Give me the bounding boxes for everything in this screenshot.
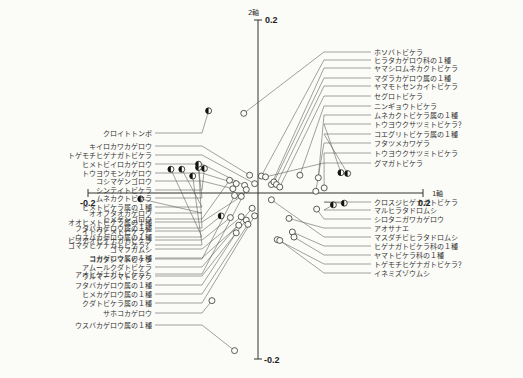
species-label: ウルマーシマトビケラ: [82, 272, 152, 281]
open-circle-marker: [241, 110, 247, 116]
leader-line: [277, 240, 371, 264]
leader-line: [289, 218, 371, 228]
leader-line: [155, 216, 221, 231]
species-label: キイロカワカゲロウ: [89, 142, 152, 151]
half-filled-circle-marker: [206, 108, 212, 114]
leader-line: [317, 209, 371, 219]
leader-line: [155, 225, 239, 258]
half-filled-circle-marker: [168, 166, 174, 172]
species-label: シンテイトビケラ: [96, 186, 152, 195]
leader-line: [324, 134, 371, 174]
species-label: ヒラタカゲロウ科の１種: [374, 56, 451, 65]
open-circle-marker: [252, 181, 258, 187]
open-circle-marker: [286, 215, 292, 221]
species-label: アオサナエ: [374, 225, 409, 233]
species-label: クロスジヒゲナガトビケラ: [374, 198, 458, 207]
species-label: グマガトビケラ: [374, 159, 423, 168]
leader-line: [324, 124, 371, 173]
open-circle-marker: [236, 222, 242, 228]
open-circle-marker: [249, 205, 255, 211]
species-label: アムールクダトビケラ: [82, 263, 152, 272]
open-circle-marker: [263, 174, 269, 180]
half-filled-circle-marker: [196, 161, 202, 167]
leader-line: [300, 106, 371, 175]
species-label: ヒゲナガトビケラ科の１種: [374, 242, 458, 251]
species-label: クロイトトンボ: [103, 130, 152, 138]
half-filled-circle-marker: [201, 165, 207, 171]
species-label: ムネカクトビケラ: [96, 194, 152, 203]
species-label: クダトビケラ属の１種: [82, 299, 152, 308]
half-filled-circle-marker: [338, 170, 344, 176]
species-label: ビワアオヒゲナガトビケラ: [68, 236, 152, 245]
species-label: ヤマトビケラ科の１種: [374, 251, 444, 260]
open-circle-marker: [268, 197, 274, 203]
open-circle-marker: [209, 298, 215, 304]
species-label: オオフタオカゲロウ: [89, 209, 152, 218]
species-label: ホソバトビケラ: [374, 48, 423, 57]
half-filled-circle-marker: [218, 213, 224, 219]
open-circle-marker: [252, 213, 258, 219]
species-label: ゴマフガムシ: [110, 245, 152, 254]
leader-line: [280, 240, 371, 273]
species-label: セグロトビケラ: [374, 92, 423, 101]
species-labels: クロイトトンボキイロカワカゲロウトゲモチヒゲナガトビケラヒメトビイロカゲロウトウ…: [68, 48, 465, 330]
species-label: コエグリトビケラ属の１種: [374, 130, 458, 139]
species-label: ヤマモトセンカイトビケラ: [374, 82, 458, 91]
open-circle-marker: [315, 175, 321, 181]
open-circle-marker: [313, 188, 319, 194]
half-filled-circle-marker: [341, 200, 347, 206]
half-filled-circle-marker: [345, 171, 351, 177]
leader-lines: [141, 52, 371, 351]
leader-line: [155, 325, 235, 351]
leader-line: [261, 60, 371, 176]
species-label: コシマゲンゴロウ: [96, 177, 152, 186]
species-label: イネミズゾウムシ: [374, 269, 430, 278]
species-label: ウスバカゲロウ属の１種: [75, 321, 152, 330]
open-circle-marker: [227, 177, 233, 183]
species-label: コカゲロウ属の１種: [89, 254, 152, 263]
y-tick-label-pos: 0.2: [265, 15, 278, 25]
species-label: ムネカクトビケラ属の１種: [374, 111, 458, 120]
open-circle-marker: [230, 186, 236, 192]
species-label: ヒメトビイロカゲロウ: [82, 160, 152, 169]
open-circle-marker: [232, 193, 238, 199]
open-circle-marker: [238, 193, 244, 199]
half-filled-circle-marker: [179, 166, 185, 172]
leader-line: [155, 301, 212, 313]
leader-line: [155, 169, 202, 237]
species-label: ヤマシロムネカクトビケラ: [374, 64, 458, 73]
species-label: イトウヒメトビケラ？: [82, 227, 152, 236]
species-label: トウヨウクサツミトビケラ: [374, 149, 458, 158]
open-circle-marker: [245, 221, 251, 227]
leader-line: [271, 68, 371, 185]
species-label: トゲモチヒゲナガトビケラ？: [374, 260, 465, 269]
species-label: フタツメカワゲラ: [374, 139, 430, 148]
open-circle-marker: [243, 187, 249, 193]
species-label: ヒメカゲロウ属の１種: [82, 290, 152, 299]
leader-line: [155, 218, 230, 240]
axis2-name: 2軸: [248, 8, 259, 17]
leader-line: [276, 86, 371, 185]
y-tick-label-neg: -0.2: [264, 355, 280, 365]
open-circle-marker: [233, 230, 239, 236]
leader-line: [155, 217, 241, 249]
ordination-scatter-plot: -0.2 0.2 0.2 -0.2 1軸 2軸 クロイトトンボキイロカワカゲロウ…: [0, 0, 523, 378]
species-label: トウヨウクサツミトビケラ？: [374, 120, 465, 129]
open-circle-marker: [291, 234, 297, 240]
half-filled-circle-marker: [330, 202, 336, 208]
open-circle-marker: [227, 215, 233, 221]
open-circle-marker: [277, 237, 283, 243]
open-circle-marker: [232, 348, 238, 354]
species-label: トウヨウモンカゲロウ: [82, 169, 152, 178]
open-circle-marker: [277, 184, 283, 190]
data-markers: [138, 108, 351, 354]
leader-line: [292, 232, 371, 246]
leader-line: [244, 52, 371, 113]
open-circle-marker: [321, 185, 327, 191]
open-circle-marker: [247, 172, 253, 178]
species-label: マダラカゲロウ属の１種: [374, 74, 451, 83]
species-label: オオヒメトビケラ属の１種: [68, 218, 152, 227]
leader-line: [155, 111, 209, 133]
open-circle-marker: [297, 172, 303, 178]
species-label: トゲモチヒゲナガトビケラ: [68, 151, 152, 160]
